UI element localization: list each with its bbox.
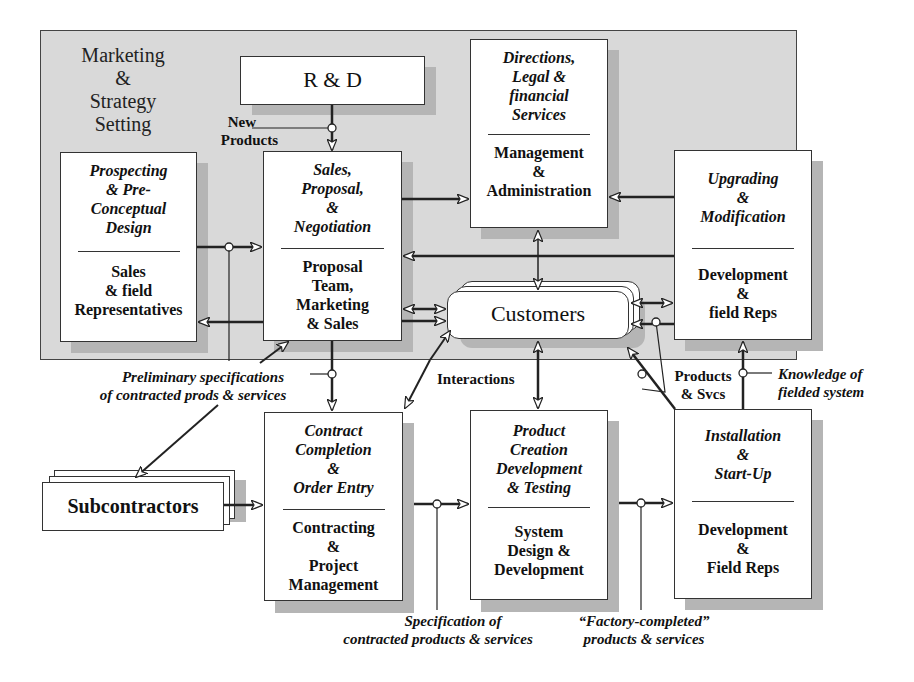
products-svcs-label: Products & Svcs — [667, 367, 739, 403]
factory-completed-label: “Factory-completed” products & services — [564, 612, 724, 648]
knowledge-label: Knowledge of fielded system — [778, 365, 864, 401]
new-products-label: New Products — [198, 113, 278, 149]
connectors — [0, 0, 914, 682]
preliminary-specs-label: Preliminary specifications of contracted… — [78, 368, 308, 404]
specification-label: Specification of contracted products & s… — [318, 612, 558, 648]
interactions-label: Interactions — [437, 370, 515, 388]
